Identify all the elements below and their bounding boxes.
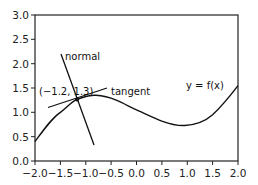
y-tick-label: 1.0 [12,106,29,118]
x-tick-label: 1.0 [179,167,196,179]
x-tick-label: −0.5 [98,167,124,179]
x-tick-label: −1.0 [73,167,99,179]
normal-label: normal [65,51,100,62]
chart-canvas: 0.0 0.5 1.0 1.5 2.0 2.5 3.0 −2.0 −1.5 −1… [0,0,258,185]
point-label: (−1.2, 1.3) [39,86,93,97]
x-tick-labels: −2.0 −1.5 −1.0 −0.5 0.0 0.5 1.0 1.5 2.0 [22,167,246,179]
y-tick-label: 2.0 [12,58,29,70]
y-tick-label: 0.5 [12,131,29,143]
x-tick-label: −2.0 [22,167,48,179]
y-tick-label: 1.5 [12,82,29,94]
y-tick-labels: 0.0 0.5 1.0 1.5 2.0 2.5 3.0 [12,9,29,167]
tangent-point-marker [75,98,79,102]
x-tick-label: 0.5 [154,167,171,179]
y-tick-label: 2.5 [12,33,29,45]
x-tick-label: −1.5 [48,167,74,179]
x-tick-label: 0.0 [128,167,145,179]
x-tick-label: 2.0 [230,167,247,179]
x-tick-label: 1.5 [204,167,221,179]
y-tick-label: 3.0 [12,9,29,21]
curve-label: y = f(x) [186,80,224,91]
x-axis [35,161,238,165]
y-tick-label: 0.0 [12,155,29,167]
tangent-label: tangent [111,86,150,97]
